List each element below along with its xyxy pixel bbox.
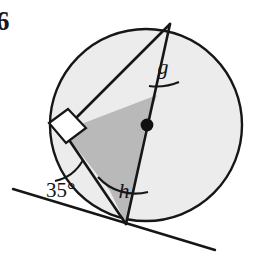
angle-label-g: g (158, 54, 169, 79)
question-number: 6 (0, 6, 10, 36)
geometry-figure: g h 35° 6 (0, 0, 258, 262)
angle-label-35-degrees: 35° (46, 178, 75, 202)
geometry-diagram-canvas: g h 35° 6 (0, 0, 258, 262)
angle-label-h: h (119, 178, 130, 203)
circle-centre-dot (141, 119, 154, 132)
